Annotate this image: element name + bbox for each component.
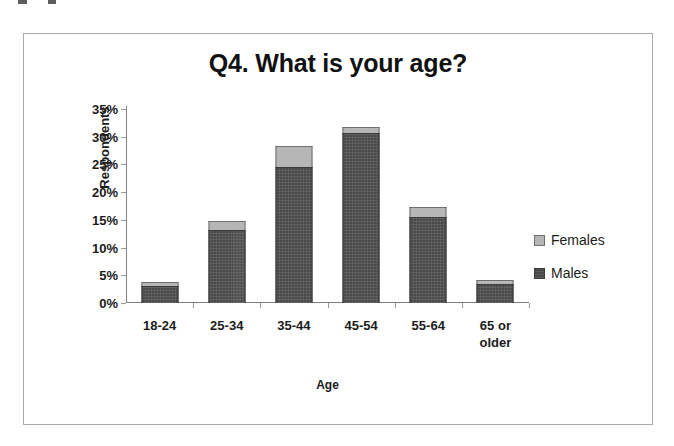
bar-segment-males[interactable] [343, 133, 380, 303]
legend-label: Females [551, 232, 605, 248]
x-axis-category-label: 25-34 [210, 317, 243, 334]
chart-title: Q4. What is your age? [24, 49, 652, 78]
bar-segment-females[interactable] [275, 146, 312, 167]
bar-segment-males[interactable] [275, 167, 312, 303]
x-axis-tick [462, 303, 463, 308]
plot-area: 0%5%10%15%20%25%30%35% 18-2425-3435-4445… [126, 109, 529, 303]
bar-segment-males[interactable] [141, 286, 178, 303]
x-axis-category-label: 55-64 [412, 317, 445, 334]
bar-slot[interactable]: 25-34 [193, 109, 260, 303]
legend-swatch-males-icon [534, 268, 545, 279]
x-axis-category-label: 45-54 [344, 317, 377, 334]
y-axis-tick-label: 5% [99, 268, 118, 283]
stacked-bar[interactable] [410, 207, 447, 303]
y-axis-title: Respondents [97, 78, 112, 218]
stacked-bar[interactable] [343, 127, 380, 303]
y-axis-tick [121, 303, 126, 304]
legend-item[interactable]: Females [534, 232, 605, 248]
x-axis-category-label: 35-44 [277, 317, 310, 334]
bar-slot[interactable]: 35-44 [260, 109, 327, 303]
x-axis-title: Age [126, 378, 529, 392]
x-axis-tick [395, 303, 396, 308]
bar-segment-females[interactable] [410, 207, 447, 216]
bar-segment-females[interactable] [208, 221, 245, 230]
y-axis-tick-label: 0% [99, 296, 118, 311]
scan-artifact-right [48, 0, 56, 4]
y-axis-tick-label: 10% [92, 240, 118, 255]
bar-slot[interactable]: 55-64 [395, 109, 462, 303]
x-axis-tick [260, 303, 261, 308]
chart-legend: FemalesMales [534, 232, 605, 298]
legend-label: Males [551, 265, 588, 281]
chart-frame: Q4. What is your age? 0%5%10%15%20%25%30… [23, 33, 653, 425]
x-axis-tick [193, 303, 194, 308]
legend-item[interactable]: Males [534, 265, 605, 281]
stacked-bar[interactable] [477, 280, 514, 303]
stacked-bar[interactable] [275, 146, 312, 303]
x-axis-category-label: 18-24 [143, 317, 176, 334]
scan-artifact-left [18, 0, 27, 4]
stacked-bar[interactable] [141, 282, 178, 303]
legend-swatch-females-icon [534, 235, 545, 246]
x-axis-tick [529, 303, 530, 308]
bar-segment-males[interactable] [410, 217, 447, 303]
stacked-bar[interactable] [208, 221, 245, 303]
bar-slot[interactable]: 65 or older [462, 109, 529, 303]
bar-segment-males[interactable] [208, 230, 245, 303]
bar-slot[interactable]: 18-24 [126, 109, 193, 303]
bar-slot[interactable]: 45-54 [328, 109, 395, 303]
bar-segment-males[interactable] [477, 284, 514, 303]
x-axis-category-label: 65 or older [480, 317, 512, 351]
x-axis-tick [328, 303, 329, 308]
